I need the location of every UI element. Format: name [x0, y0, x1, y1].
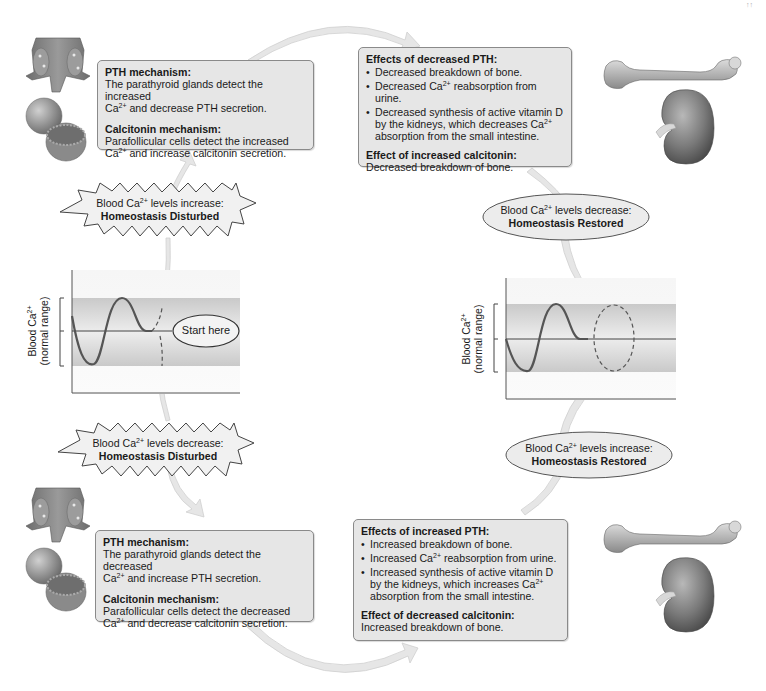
start-here-label: Start here [174, 324, 238, 336]
calcitonin-effect-heading: Effect of increased calcitonin: [366, 149, 564, 161]
starburst-bottom-label: Blood Ca2+ levels decrease: Homeostasis … [78, 437, 238, 463]
parathyroid-glands-icon [26, 38, 90, 92]
thyroid-follicle-icon [26, 548, 86, 611]
oval-bottom-right-label: Blood Ca2+ levels increase: Homeostasis … [511, 442, 667, 468]
mechanism-box-increase: PTH mechanism: The parathyroid glands de… [97, 60, 314, 150]
calcitonin-text: Parafollicular cells detect the increase… [105, 135, 306, 159]
pth-text: The parathyroid glands detect the increa… [105, 78, 306, 114]
effects-box-decreased-pth: Effects of decreased PTH: Decreased brea… [358, 47, 572, 167]
effects-heading: Effects of decreased PTH: [366, 53, 564, 65]
effect-item: Increased breakdown of bone. [361, 538, 560, 550]
graph-left-ylabel: Blood Ca2+ (normal range) [26, 286, 50, 376]
starburst-top-label: Blood Ca2+ levels increase: Homeostasis … [80, 197, 240, 223]
effects-box-increased-pth: Effects of increased PTH: Increased brea… [353, 519, 568, 641]
parathyroid-glands-icon [26, 488, 90, 542]
femur-bone-icon [604, 521, 741, 553]
pth-heading: PTH mechanism: [103, 536, 306, 548]
kidney-icon [656, 90, 714, 164]
calcitonin-text: Parafollicular cells detect the decrease… [103, 605, 306, 629]
mechanism-box-decrease: PTH mechanism: The parathyroid glands de… [95, 530, 314, 622]
thyroid-follicle-icon [26, 98, 86, 161]
pth-heading: PTH mechanism: [105, 66, 306, 78]
effect-item: Decreased synthesis of active vitamin D … [366, 106, 564, 142]
calcitonin-effect-text: Decreased breakdown of bone. [366, 161, 564, 173]
effects-heading: Effects of increased PTH: [361, 525, 560, 537]
effect-item: Decreased breakdown of bone. [366, 66, 564, 78]
effect-item: Increased synthesis of active vitamin D … [361, 566, 560, 602]
graph-right [494, 278, 676, 400]
effect-item: Decreased Ca2+ reabsorption from urine. [366, 80, 564, 104]
page-marker: ↑↑ [746, 1, 753, 8]
effects-list: Decreased breakdown of bone. Decreased C… [366, 66, 564, 142]
calcitonin-effect-heading: Effect of decreased calcitonin: [361, 609, 560, 621]
calcitonin-heading: Calcitonin mechanism: [103, 593, 306, 605]
oval-top-right-label: Blood Ca2+ levels decrease: Homeostasis … [488, 204, 644, 230]
graph-right-ylabel: Blood Ca2+ (normal range) [460, 294, 484, 384]
pth-text: The parathyroid glands detect the decrea… [103, 548, 306, 584]
effect-item: Increased Ca2+ reabsorption from urine. [361, 552, 560, 564]
effects-list: Increased breakdown of bone. Increased C… [361, 538, 560, 602]
calcitonin-heading: Calcitonin mechanism: [105, 123, 306, 135]
femur-bone-icon [604, 57, 741, 89]
kidney-icon [656, 558, 714, 632]
calcitonin-effect-text: Increased breakdown of bone. [361, 621, 560, 633]
